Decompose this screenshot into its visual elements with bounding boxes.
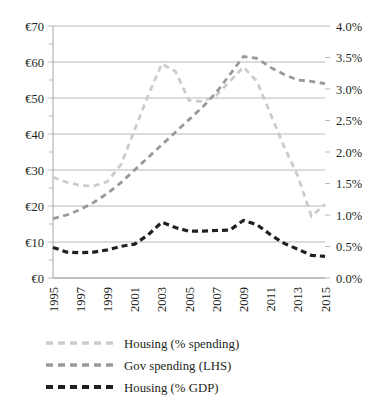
y-axis-left-tick-label: €0 — [32, 272, 45, 286]
y-axis-right-tick-label: 1.0% — [336, 209, 362, 223]
gridlines — [53, 26, 325, 278]
series-line — [53, 64, 325, 216]
x-axis-tick-label: 2005 — [183, 287, 197, 312]
x-axis-tick-label: 1995 — [47, 287, 61, 312]
legend-label: Housing (% GDP) — [124, 381, 219, 395]
y-axis-left-tick-label: €20 — [25, 200, 44, 214]
x-axis-tick-label: 2001 — [128, 287, 142, 312]
y-axis-right-labels: 4.0%3.5%3.0%2.5%2.0%1.5%1.0%0.5%0.0% — [336, 20, 362, 286]
x-axis-tick-label: 2013 — [291, 287, 305, 312]
y-axis-right-tick-label: 3.5% — [336, 51, 362, 65]
chart-svg: €70€60€50€40€30€20€10€0 4.0%3.5%3.0%2.5%… — [0, 0, 382, 415]
chart-legend: Housing (% spending)Gov spending (LHS)Ho… — [46, 337, 239, 395]
series-line — [53, 57, 325, 219]
x-axis-tick-label: 1997 — [74, 287, 88, 312]
x-axis-labels: 1995199719992001200320052007200920112013… — [47, 287, 333, 312]
y-axis-left-tick-label: €60 — [25, 56, 44, 70]
x-axis-tick-label: 2015 — [319, 287, 333, 312]
legend-label: Gov spending (LHS) — [124, 359, 231, 373]
x-axis-tick-label: 1999 — [101, 287, 115, 312]
legend-label: Housing (% spending) — [124, 337, 239, 351]
y-axis-right-tick-label: 2.0% — [336, 146, 362, 160]
x-axis-tick-label: 2009 — [237, 287, 251, 312]
x-axis-tick-label: 2011 — [264, 287, 278, 312]
y-axis-right-tick-label: 2.5% — [336, 114, 362, 128]
y-axis-right-tick-label: 3.0% — [336, 83, 362, 97]
axis-lines — [53, 26, 325, 278]
y-axis-left-tick-label: €70 — [25, 20, 44, 34]
chart-container: €70€60€50€40€30€20€10€0 4.0%3.5%3.0%2.5%… — [0, 0, 382, 415]
data-series — [53, 57, 325, 257]
y-axis-right-tick-label: 4.0% — [336, 20, 362, 34]
y-axis-left-tick-label: €50 — [25, 92, 44, 106]
series-line — [53, 220, 325, 256]
y-axis-right-tick-label: 1.5% — [336, 177, 362, 191]
y-axis-left-tick-label: €10 — [25, 236, 44, 250]
y-axis-left-labels: €70€60€50€40€30€20€10€0 — [25, 20, 44, 286]
x-axis-tick-label: 2003 — [155, 287, 169, 312]
y-axis-left-tick-label: €40 — [25, 128, 44, 142]
y-axis-right-tick-label: 0.5% — [336, 240, 362, 254]
y-axis-left-tick-label: €30 — [25, 164, 44, 178]
y-axis-right-tick-label: 0.0% — [336, 272, 362, 286]
x-axis-tick-label: 2007 — [210, 287, 224, 312]
